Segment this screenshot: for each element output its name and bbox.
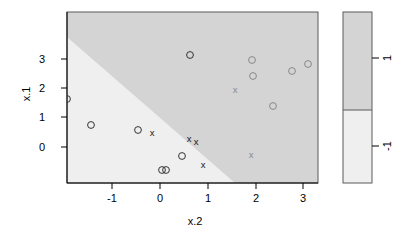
x-tick-label: 3 (291, 192, 315, 204)
data-point: x (187, 133, 192, 144)
data-point: x (150, 127, 155, 138)
svm-classification-plot: x x x x x x 3 2 1 0 -1 0 1 2 3 x. (0, 0, 411, 239)
y-tick-label: 0 (34, 141, 50, 153)
legend-swatch-positive (343, 12, 372, 110)
y-tick-label: 2 (34, 82, 50, 94)
data-point: x (194, 136, 199, 147)
x-tick-label: 1 (196, 192, 220, 204)
data-point: x (233, 84, 238, 95)
x-axis-title: x.2 (163, 215, 227, 227)
legend-swatch-negative (343, 110, 372, 183)
y-axis-title: x.1 (20, 64, 32, 124)
x-tick-label: 0 (148, 192, 172, 204)
data-point: x (249, 149, 254, 160)
x-tick-label: -1 (100, 192, 124, 204)
legend-label-negative: -1 (381, 137, 393, 155)
y-tick-label: 1 (34, 111, 50, 123)
x-tick-label: 2 (244, 192, 268, 204)
data-point: x (201, 159, 206, 170)
legend-label-positive: 1 (381, 51, 393, 65)
y-axis-ticks (61, 59, 67, 147)
y-tick-label: 3 (34, 53, 50, 65)
x-axis-ticks (112, 183, 303, 189)
legend-ticks (372, 58, 379, 146)
